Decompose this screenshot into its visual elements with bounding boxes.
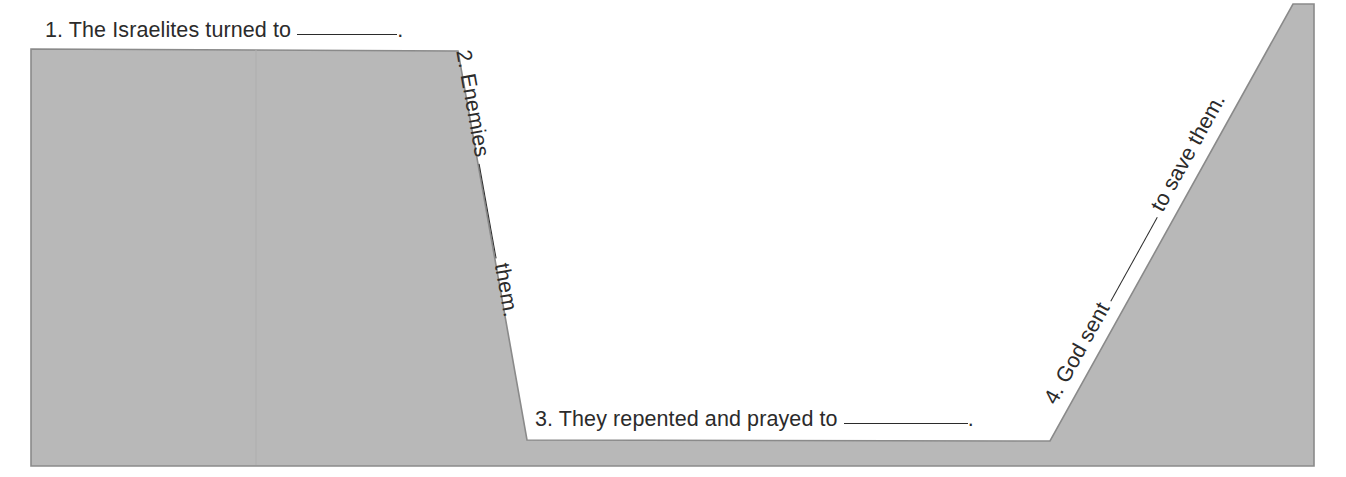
step-3-label: 3. They repented and prayed to .	[535, 408, 974, 431]
step-1-text-after: .	[397, 18, 403, 42]
step-3-blank-line[interactable]	[844, 423, 968, 424]
step-3-text-before: They repented and prayed to	[559, 407, 838, 431]
step-1-text-before: The Israelites turned to	[69, 18, 291, 42]
step-2-number: 2.	[451, 48, 478, 70]
step-1-label: 1. The Israelites turned to .	[45, 19, 403, 42]
step-1-blank-line[interactable]	[297, 34, 397, 35]
step-1-number: 1.	[45, 18, 63, 42]
step-3-number: 3.	[535, 407, 553, 431]
worksheet-canvas: 1. The Israelites turned to . 2. Enemies…	[0, 0, 1346, 477]
step-3-text-after: .	[968, 407, 974, 431]
valley-cycle-shape	[31, 4, 1314, 466]
